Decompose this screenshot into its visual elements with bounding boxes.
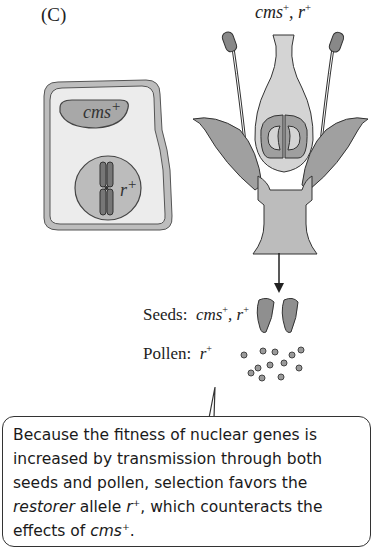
- flower-icon: [193, 31, 368, 254]
- nucleus-genotype-label: r+: [120, 176, 137, 201]
- seeds-row: Seeds: cms+, r+: [143, 305, 249, 325]
- explanation-callout: Because the fitness of nuclear genes is …: [2, 416, 371, 547]
- pollen-icon: [241, 347, 304, 381]
- cytoplasm-genotype-label: cms+: [83, 98, 121, 123]
- arrow-down-icon: [274, 253, 284, 293]
- pollen-row: Pollen: r+: [143, 344, 212, 364]
- seeds-icon: [257, 298, 298, 332]
